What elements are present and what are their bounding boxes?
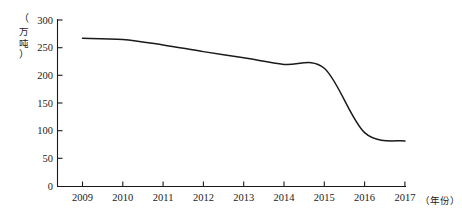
- y-axis-unit-char-3: ）: [19, 49, 29, 60]
- chart-svg: （ 万 吨 ） 300 250 200 150 100 50 0: [0, 0, 462, 220]
- y-tick-label-150: 150: [37, 98, 53, 109]
- y-axis-unit-char-2: 吨: [19, 38, 29, 49]
- y-tick-label-0: 0: [48, 181, 53, 192]
- x-tick-label-2010: 2010: [112, 192, 133, 203]
- y-axis-unit-char-0: （: [19, 13, 29, 24]
- x-tick-label-2012: 2012: [193, 192, 214, 203]
- y-tick-label-250: 250: [37, 42, 53, 53]
- x-tick-label-2013: 2013: [233, 192, 254, 203]
- x-tick-label-2014: 2014: [274, 192, 296, 203]
- y-axis-unit-label: （ 万 吨 ）: [19, 13, 29, 60]
- x-tick-label-2015: 2015: [314, 192, 335, 203]
- line-chart: （ 万 吨 ） 300 250 200 150 100 50 0: [0, 0, 462, 220]
- y-tick-label-300: 300: [37, 15, 53, 26]
- x-axis-unit-label: （年份）: [420, 195, 460, 206]
- x-tick-label-2017: 2017: [394, 192, 415, 203]
- y-tick-label-50: 50: [43, 153, 54, 164]
- x-tick-label-2016: 2016: [354, 192, 375, 203]
- y-tick-label-100: 100: [37, 125, 53, 136]
- y-tick-label-200: 200: [37, 70, 53, 81]
- x-tick-label-2011: 2011: [153, 192, 174, 203]
- y-axis-unit-char-1: 万: [19, 26, 29, 37]
- x-tick-label-2009: 2009: [72, 192, 93, 203]
